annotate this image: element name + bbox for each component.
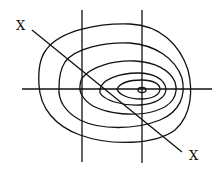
- contour-1-outer: [39, 24, 191, 142]
- contour-3: [80, 61, 176, 114]
- label-x-end: X: [189, 148, 199, 163]
- contour-diagram: X X: [0, 0, 222, 173]
- label-x-start: X: [16, 18, 26, 33]
